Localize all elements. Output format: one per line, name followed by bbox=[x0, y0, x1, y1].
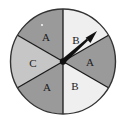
sector-label-c-left: C bbox=[29, 57, 36, 69]
sector-label-a-top-left: A bbox=[42, 31, 50, 43]
sector-label-b-top-right: B bbox=[72, 34, 79, 46]
sector-label-a-right: A bbox=[86, 56, 94, 68]
arrow-pivot-icon bbox=[60, 58, 66, 64]
spinner-svg: A C A B A B bbox=[0, 0, 130, 123]
scan-speck bbox=[41, 24, 43, 26]
spinner-figure: A C A B A B bbox=[0, 0, 130, 123]
sector-label-b-bottom-right: B bbox=[71, 80, 78, 92]
sector-label-a-bottom-left: A bbox=[43, 81, 51, 93]
